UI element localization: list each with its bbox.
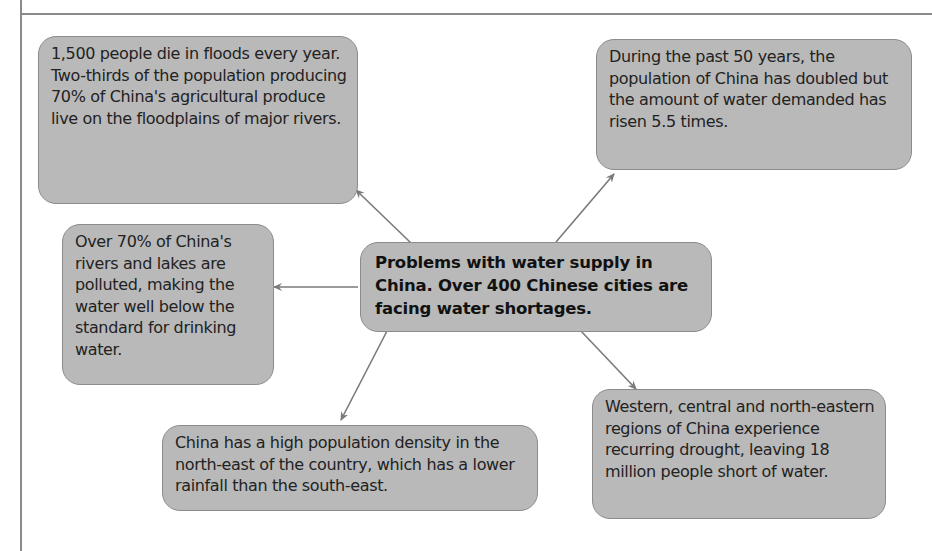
node-center-text: Problems with water supply in China. Ove… [375,253,688,318]
arrow-to-drought [580,330,636,389]
node-drought: Western, central and north-eastern regio… [592,389,886,519]
node-drought-text: Western, central and north-eastern regio… [605,397,874,481]
node-demand: During the past 50 years, the population… [596,39,912,170]
node-population-density-text: China has a high population density in t… [175,433,515,495]
node-floods: 1,500 people die in floods every year. T… [38,36,358,204]
arrow-to-floods [356,190,411,243]
node-demand-text: During the past 50 years, the population… [609,47,888,131]
arrow-to-population-density [341,331,387,420]
node-population-density: China has a high population density in t… [162,425,538,511]
node-floods-text: 1,500 people die in floods every year. T… [51,44,347,128]
arrow-to-demand [556,174,614,242]
node-pollution: Over 70% of China's rivers and lakes are… [62,224,274,385]
node-pollution-text: Over 70% of China's rivers and lakes are… [75,232,236,359]
node-center-problem: Problems with water supply in China. Ove… [360,242,712,332]
